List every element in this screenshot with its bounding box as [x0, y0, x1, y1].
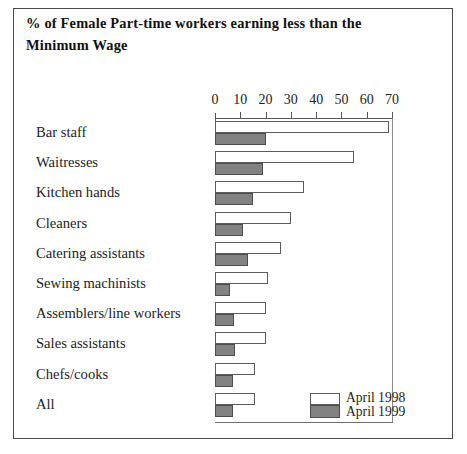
chart-figure: % of Female Part-time workers earning le… [0, 0, 467, 454]
bar-1998 [215, 181, 304, 193]
category-label: Chefs/cooks [36, 366, 108, 382]
bar-1998 [215, 121, 389, 133]
bar-1999 [215, 375, 233, 387]
category-label: Bar staff [36, 124, 86, 140]
bar-1999 [215, 133, 266, 145]
plot-area: 010203040506070 [215, 118, 392, 422]
axis-tick-label-30: 30 [284, 92, 298, 108]
bar-1998 [215, 393, 255, 405]
category-label: Kitchen hands [36, 184, 120, 200]
bar-1998 [215, 212, 291, 224]
bar-group [215, 363, 392, 387]
bar-1999 [215, 314, 234, 326]
axis-tick-40 [316, 112, 317, 118]
bar-1998 [215, 363, 255, 375]
axis-tick-label-40: 40 [309, 92, 323, 108]
category-axis-labels: Bar staffWaitressesKitchen handsCleaners… [14, 118, 210, 422]
grey-swatch [310, 405, 340, 418]
bar-1998 [215, 242, 281, 254]
plot-right-border [392, 118, 393, 422]
plot-bottom-border [215, 422, 393, 423]
category-label: Assemblers/line workers [36, 305, 181, 321]
category-label: Cleaners [36, 215, 87, 231]
axis-tick-label-10: 10 [233, 92, 247, 108]
bar-1999 [215, 224, 243, 236]
axis-tick-label-0: 0 [212, 92, 219, 108]
bar-1998 [215, 302, 266, 314]
bar-1999 [215, 405, 233, 417]
white-swatch [310, 393, 340, 405]
axis-tick-label-70: 70 [385, 92, 399, 108]
axis-tick-label-50: 50 [334, 92, 348, 108]
bar-1999 [215, 254, 248, 266]
chart-title-line-2: Minimum Wage [26, 34, 441, 56]
bar-group [215, 242, 392, 266]
legend-swatches [310, 393, 340, 418]
axis-tick-60 [367, 112, 368, 118]
bar-1999 [215, 344, 235, 356]
bar-group [215, 302, 392, 326]
bar-group [215, 151, 392, 175]
chart-title: % of Female Part-time workers earning le… [26, 12, 441, 56]
axis-tick-20 [266, 112, 267, 118]
bar-1998 [215, 332, 266, 344]
bar-1999 [215, 284, 230, 296]
category-label: Waitresses [36, 154, 98, 170]
axis-tick-label-20: 20 [259, 92, 273, 108]
category-label: Sales assistants [36, 335, 126, 351]
bar-group [215, 212, 392, 236]
chart-title-line-1: % of Female Part-time workers earning le… [26, 15, 362, 31]
bar-1999 [215, 193, 253, 205]
axis-tick-10 [240, 112, 241, 118]
axis-tick-label-60: 60 [360, 92, 374, 108]
bar-1998 [215, 272, 268, 284]
axis-tick-30 [291, 112, 292, 118]
chart-legend: April 1998 April 1999 [310, 392, 438, 422]
legend-label-april-1999: April 1999 [346, 404, 405, 420]
axis-tick-70 [392, 112, 393, 118]
bar-1998 [215, 151, 354, 163]
category-label: Catering assistants [36, 245, 145, 261]
bar-group [215, 272, 392, 296]
bar-group [215, 121, 392, 145]
bar-group [215, 181, 392, 205]
value-axis-line [215, 118, 392, 119]
category-label: All [36, 396, 55, 412]
bar-1999 [215, 163, 263, 175]
axis-tick-50 [341, 112, 342, 118]
category-label: Sewing machinists [36, 275, 146, 291]
bar-group [215, 332, 392, 356]
